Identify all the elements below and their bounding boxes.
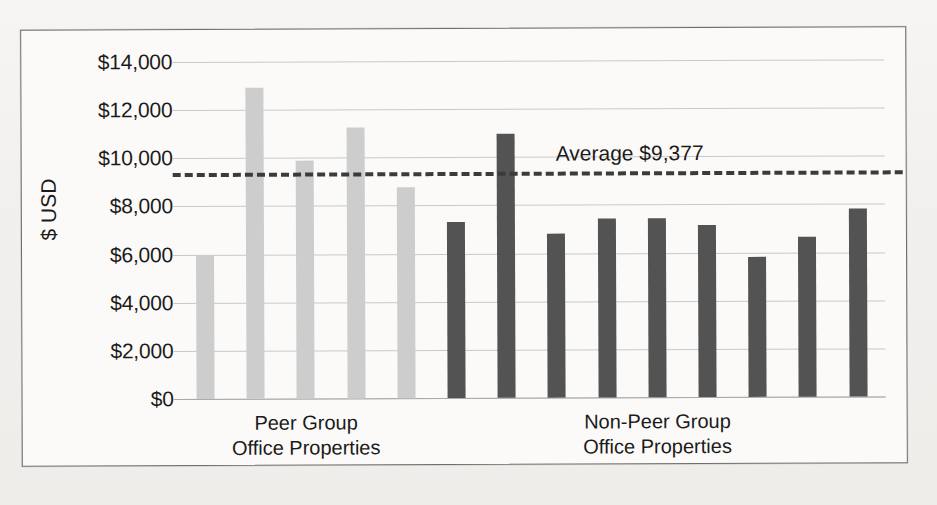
bar: [698, 225, 717, 397]
bar: [447, 222, 466, 398]
average-line-label: Average $9,377: [556, 141, 704, 166]
bar-series-container: [20, 26, 906, 464]
bar: [597, 218, 616, 397]
bar: [848, 209, 867, 397]
bar: [346, 128, 365, 399]
bar: [798, 237, 817, 397]
bar: [397, 188, 416, 399]
bar: [296, 160, 315, 398]
bar: [246, 88, 265, 399]
bar: [196, 255, 215, 399]
x-axis-category-label-nonpeer: Non-Peer Group Office Properties: [517, 409, 797, 460]
bar: [648, 218, 667, 397]
bar: [547, 234, 566, 398]
category-label-line1: Non-Peer Group: [517, 409, 797, 435]
category-label-line2: Office Properties: [518, 434, 798, 460]
category-label-line1: Peer Group: [186, 410, 426, 436]
bar: [748, 257, 767, 397]
chart-plot-area: $ USD $0$2,000$4,000$6,000$8,000$10,000$…: [20, 26, 906, 464]
category-label-line2: Office Properties: [186, 435, 426, 461]
x-axis-category-label-peer: Peer Group Office Properties: [186, 410, 426, 461]
